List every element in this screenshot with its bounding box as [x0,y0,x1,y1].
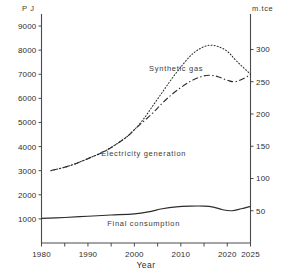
right-tick-label: 150 [256,142,270,151]
left-tick-label: 5000 [18,118,37,127]
right-tick-label: 100 [256,174,270,183]
right-tick-label: 200 [256,110,270,119]
right-axis-ticks: 50100150200250300 [251,45,271,215]
x-tick-label: 2010 [172,250,191,259]
x-axis-ticks: 198019902000201020202025 [32,243,260,259]
series-annotation-final-consumption: Final consumption [107,219,180,228]
left-tick-label: 6000 [18,94,37,103]
right-tick-label: 250 [256,78,270,87]
left-tick-label: 3000 [18,167,37,176]
right-tick-label: 50 [256,207,266,216]
chart-container: P J m.tce 100020003000400050006000700080… [0,0,286,279]
right-tick-label: 300 [256,45,270,54]
left-axis-ticks: 100020003000400050006000700080009000 [18,22,42,224]
series-curve-final-consumption [42,206,251,218]
right-axis-unit-label: m.tce [252,4,273,13]
left-tick-label: 7000 [18,70,37,79]
x-axis-title: Year [136,260,155,270]
series-annotation-synthetic-gas: Synthetic gas [149,64,203,73]
left-tick-label: 2000 [18,191,37,200]
x-tick-label: 2020 [218,250,237,259]
left-tick-label: 4000 [18,143,37,152]
left-tick-label: 9000 [18,22,37,31]
series-annotations: Synthetic gasElectricity generationFinal… [101,64,203,228]
x-tick-label: 2025 [241,250,260,259]
series-annotation-electricity-generation: Electricity generation [101,149,186,158]
left-tick-label: 1000 [18,215,37,224]
left-tick-label: 8000 [18,46,37,55]
x-tick-label: 1980 [32,250,51,259]
energy-projection-chart: P J m.tce 100020003000400050006000700080… [0,0,286,279]
left-axis-unit-label: P J [22,4,35,13]
x-tick-label: 2000 [125,250,144,259]
series-layer [42,45,251,218]
x-tick-label: 1990 [79,250,98,259]
